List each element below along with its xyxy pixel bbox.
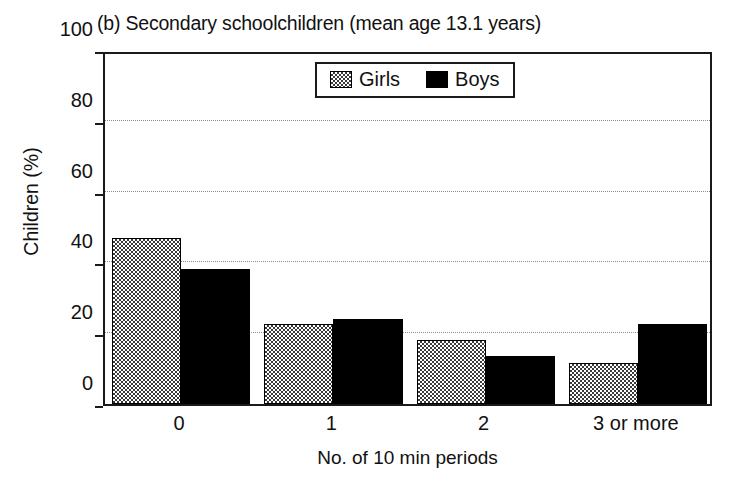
- y-tick-label-40: 40: [7, 230, 93, 253]
- y-tick-label-20: 20: [7, 301, 93, 324]
- legend-swatch-girls-icon: [330, 71, 352, 88]
- legend-item-girls: Girls: [330, 68, 400, 91]
- y-tickmark-100: [95, 52, 103, 54]
- legend-swatch-boys-icon: [426, 71, 448, 88]
- chart-figure: (b) Secondary schoolchildren (mean age 1…: [0, 0, 737, 497]
- y-tick-label-0: 0: [7, 372, 93, 395]
- gridline-80: [105, 120, 710, 121]
- y-tickmark-80: [95, 123, 103, 125]
- bar-boys-2: [486, 356, 555, 404]
- bar-boys-1: [333, 319, 402, 404]
- chart-legend: GirlsBoys: [315, 62, 515, 98]
- y-tick-label-100: 100: [7, 18, 93, 41]
- bar-girls-0: [112, 238, 181, 404]
- bar-girls-2: [417, 340, 486, 404]
- y-tickmark-60: [95, 194, 103, 196]
- y-tickmark-40: [95, 264, 103, 266]
- y-tick-label-60: 60: [7, 160, 93, 183]
- x-axis-tick-labels: 0123 or more: [103, 412, 712, 442]
- x-axis-title: No. of 10 min periods: [103, 447, 712, 469]
- plot-area: [103, 52, 712, 406]
- bar-boys-3-or-more: [638, 324, 707, 404]
- x-tick-label-1: 1: [255, 412, 407, 435]
- gridline-60: [105, 191, 710, 192]
- bar-boys-0: [181, 269, 250, 404]
- y-tickmark-0: [95, 406, 103, 408]
- y-tick-label-80: 80: [7, 89, 93, 112]
- chart-title: (b) Secondary schoolchildren (mean age 1…: [97, 12, 541, 35]
- legend-item-boys: Boys: [426, 68, 499, 91]
- bar-girls-1: [264, 324, 333, 404]
- x-tick-label-0: 0: [103, 412, 255, 435]
- x-tick-label-3-or-more: 3 or more: [560, 412, 712, 435]
- x-tick-label-2: 2: [408, 412, 560, 435]
- y-tickmark-20: [95, 335, 103, 337]
- legend-label-boys: Boys: [455, 68, 499, 91]
- legend-label-girls: Girls: [359, 68, 400, 91]
- bar-girls-3-or-more: [569, 363, 638, 404]
- y-axis-tick-labels: 020406080100: [0, 52, 93, 406]
- gridline-40: [105, 261, 710, 262]
